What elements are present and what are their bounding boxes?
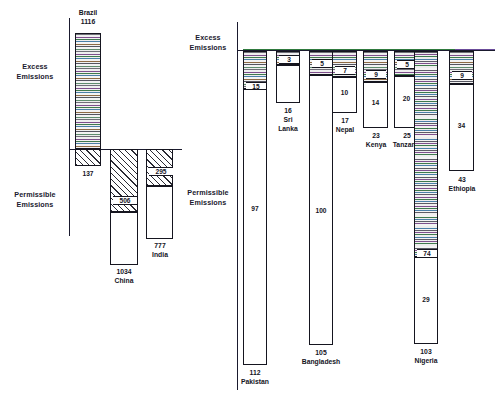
left-excess-line1: Excess	[22, 62, 47, 71]
bar-caption-pakistan: 112 Pakistan	[225, 369, 285, 387]
left-permissible-line1: Permissible	[14, 190, 55, 199]
sri-lanka-country-line2: Lanka	[278, 125, 298, 132]
nigeria-permissible-value: 29	[414, 296, 438, 303]
right-excess-emissions-label: Excess Emissions	[180, 33, 236, 52]
right-panel-top-rule-accent2	[455, 49, 495, 50]
bar-caption-nigeria: 103 Nigeria	[396, 348, 456, 366]
india-country-label: India	[152, 251, 168, 258]
bar-caption-china: 1034 China	[94, 268, 154, 286]
nepal-excess-value: 7	[335, 66, 355, 75]
right-excess-line1: Excess	[195, 33, 220, 42]
left-excess-line2: Emissions	[17, 72, 54, 81]
kenya-excess-value: 9	[366, 70, 386, 79]
brazil-excess-segment	[75, 33, 101, 149]
ethiopia-permissible-value: 34	[449, 122, 474, 129]
ethiopia-excess-value: 9	[452, 71, 472, 80]
bar-caption-brazil: Brazil 1116	[58, 9, 118, 27]
ethiopia-total-value: 43	[458, 176, 466, 183]
pakistan-total-value: 112	[250, 369, 261, 376]
bar-caption-india: 777 India	[130, 242, 190, 260]
pakistan-permissible-value: 97	[243, 205, 267, 212]
left-excess-emissions-label: Excess Emissions	[6, 62, 64, 81]
bangladesh-excess-value: 5	[312, 59, 332, 68]
india-total-value: 777	[154, 242, 165, 249]
pakistan-country-label: Pakistan	[241, 378, 269, 385]
bangladesh-total-value: 105	[315, 349, 326, 356]
brazil-total-value: 1116	[81, 18, 95, 25]
india-permissible-plain-segment	[146, 186, 173, 239]
bar-caption-bangladesh: 105 Bangladesh	[291, 349, 351, 367]
nepal-total-value: 17	[341, 117, 349, 124]
nepal-permissible-value: 10	[332, 89, 357, 96]
nigeria-excess-segment	[414, 51, 438, 257]
bar-caption-ethiopia: 43 Ethiopia	[432, 176, 492, 194]
china-country-label: China	[115, 277, 134, 284]
sri-lanka-country-line1: Sri	[283, 116, 292, 123]
left-permissible-emissions-label: Permissible Emissions	[6, 190, 64, 209]
right-permissible-emissions-label: Permissible Emissions	[180, 188, 236, 207]
brazil-permissible-hatched-segment	[75, 149, 101, 166]
nigeria-total-value: 103	[420, 348, 431, 355]
left-panel-vertical-axis	[69, 18, 70, 236]
brazil-country-label: Brazil	[79, 9, 98, 16]
india-hatched-value: 295	[149, 167, 173, 176]
china-hatched-value: 506	[113, 196, 137, 205]
right-panel-vertical-axis	[237, 22, 238, 390]
china-total-value: 1034	[116, 268, 131, 275]
bangladesh-permissible-value: 100	[309, 207, 333, 214]
brazil-permissible-value: 137	[73, 170, 103, 177]
right-permissible-line1: Permissible	[187, 188, 228, 197]
right-permissible-line2: Emissions	[190, 198, 227, 207]
kenya-permissible-value: 14	[363, 99, 388, 106]
left-permissible-line2: Emissions	[17, 200, 54, 209]
tanzania-total-value: 25	[403, 132, 411, 139]
emissions-chart: Excess Emissions Permissible Emissions B…	[0, 0, 500, 406]
sri-lanka-permissible-segment	[276, 65, 300, 103]
bangladesh-country-label: Bangladesh	[302, 358, 341, 365]
sri-lanka-excess-value: 3	[279, 55, 299, 64]
nigeria-country-label: Nigeria	[414, 357, 437, 364]
sri-lanka-total-value: 16	[284, 107, 292, 114]
right-excess-line2: Emissions	[190, 43, 227, 52]
ethiopia-country-label: Ethiopia	[449, 185, 476, 192]
